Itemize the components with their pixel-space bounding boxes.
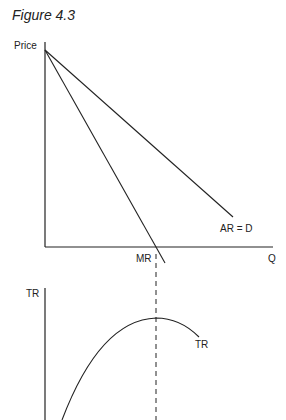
price-axis-label: Price bbox=[14, 40, 37, 51]
mr-label: MR bbox=[136, 253, 152, 264]
tr-curve bbox=[62, 318, 199, 420]
tr-axis-label: TR bbox=[26, 288, 39, 299]
q-axis-label: Q bbox=[268, 253, 276, 264]
tr-curve-label: TR bbox=[195, 339, 208, 350]
mr-line bbox=[45, 50, 165, 263]
ar-demand-label: AR = D bbox=[220, 223, 253, 234]
figure-canvas: Figure 4.3 Price Q AR = D MR TR TR bbox=[0, 0, 286, 420]
figure-title: Figure 4.3 bbox=[12, 7, 75, 23]
ar-demand-line bbox=[45, 50, 233, 217]
